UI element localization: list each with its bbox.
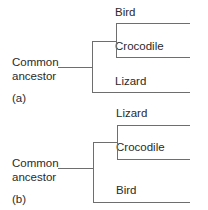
- branch-a-inner-connector: [92, 41, 117, 42]
- node-vertical-a-outer: [92, 41, 93, 93]
- tip-label-b-2: Crocodile: [116, 141, 165, 154]
- root-label-b-line2: ancestor: [12, 171, 56, 184]
- tip-label-a-3: Lizard: [115, 75, 146, 88]
- tip-label-a-1: Bird: [115, 6, 135, 19]
- tip-branch-a-1: [116, 23, 190, 24]
- tip-branch-b-1: [117, 125, 190, 126]
- tip-label-a-2: Crocodile: [115, 40, 164, 53]
- branch-b-inner-connector: [93, 142, 118, 143]
- panel-label-b: (b): [12, 193, 26, 206]
- tip-branch-a-2: [116, 57, 190, 58]
- panel-label-a: (a): [12, 92, 26, 105]
- node-vertical-b-inner: [117, 125, 118, 160]
- root-branch-b: [58, 168, 94, 169]
- tip-label-b-3: Bird: [116, 184, 136, 197]
- tip-branch-b-3: [93, 202, 190, 203]
- root-label-b-line1: Common: [12, 157, 59, 170]
- root-branch-a: [58, 67, 93, 68]
- tip-branch-a-3: [92, 92, 190, 93]
- node-vertical-b-outer: [93, 142, 94, 203]
- tip-branch-b-2: [117, 159, 190, 160]
- tip-label-b-1: Lizard: [116, 107, 147, 120]
- root-label-a-line2: ancestor: [12, 70, 56, 83]
- node-vertical-a-inner: [116, 23, 117, 58]
- root-label-a-line1: Common: [12, 56, 59, 69]
